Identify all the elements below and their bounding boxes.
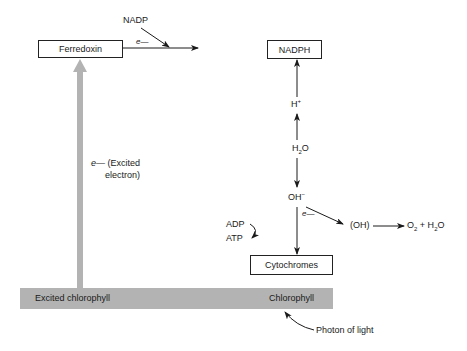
atp-label: ATP <box>226 233 243 243</box>
excited-chlorophyll-label: Excited chlorophyll <box>35 293 110 303</box>
hplus-label: H+ <box>291 98 301 109</box>
chlorophyll-band: Excited chlorophyll Chlorophyll <box>20 288 333 309</box>
nadp-label: NADP <box>123 15 148 25</box>
chlorophyll-label: Chlorophyll <box>269 293 314 303</box>
photon-of-light-label: Photon of light <box>316 325 374 335</box>
oh-electron-label: e— <box>302 209 314 218</box>
cytochromes-label: Cytochromes <box>265 260 318 270</box>
ferredoxin-label: Ferredoxin <box>59 44 102 54</box>
ohminus-label: OH− <box>288 191 305 202</box>
adp-label: ADP <box>226 219 245 229</box>
nadph-label: NADPH <box>279 45 311 55</box>
excited-electron-label-line2: electron) <box>105 170 140 180</box>
ferredoxin-box: Ferredoxin <box>38 40 123 58</box>
oh-radical-label: (OH) <box>350 220 370 230</box>
ferredoxin-electron-label: e— <box>136 37 148 46</box>
nadph-box: NADPH <box>267 40 322 59</box>
excited-electron-label: e— (Excited <box>91 158 140 168</box>
h2o-label: H2O <box>292 143 309 156</box>
o2-h2o-label: O2 + H2O <box>407 220 444 233</box>
cytochromes-box: Cytochromes <box>250 255 333 275</box>
excited-electron-arrow <box>73 59 87 289</box>
adp-to-atp-arrow <box>250 224 256 238</box>
photon-arrow <box>285 312 314 330</box>
